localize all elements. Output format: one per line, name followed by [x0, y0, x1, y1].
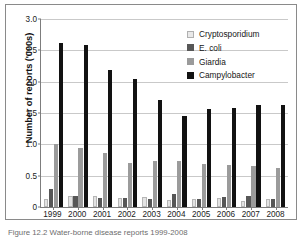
x-axis-label: 1999 — [40, 210, 65, 219]
bar — [93, 196, 97, 207]
y-tick-label: 2.0 — [26, 77, 37, 86]
x-axis-label: 2008 — [263, 210, 288, 219]
x-axis-label: 2000 — [65, 210, 90, 219]
bar — [123, 198, 127, 207]
x-axis-label: 2007 — [238, 210, 263, 219]
legend-swatch-icon — [187, 44, 194, 51]
legend-label: Campylobacter — [199, 71, 255, 79]
bar — [182, 116, 186, 207]
y-tick-label: 0.5 — [26, 171, 37, 180]
bar — [227, 165, 231, 207]
bar — [246, 196, 250, 207]
bar — [54, 144, 58, 207]
bar — [241, 201, 245, 207]
bar-group — [165, 19, 190, 207]
bar — [108, 70, 112, 207]
bar-group — [115, 19, 140, 207]
bar — [177, 161, 181, 207]
bar — [202, 164, 206, 207]
bar — [133, 79, 137, 207]
figure-root: Number of reports ('000s) 00.51.01.52.02… — [0, 0, 305, 241]
bar — [44, 199, 48, 207]
x-axis-label: 2003 — [139, 210, 164, 219]
bar — [142, 197, 146, 207]
x-axis-label: 2004 — [164, 210, 189, 219]
bar — [217, 198, 221, 207]
bar — [266, 199, 270, 207]
legend-label: Cryptosporidium — [199, 30, 259, 38]
legend-swatch-icon — [187, 58, 194, 65]
y-tick-label: 1.0 — [26, 140, 37, 149]
x-axis-label: 2006 — [214, 210, 239, 219]
chart-legend: CryptosporidiumE. coliGiardiaCampylobact… — [187, 30, 259, 80]
bar — [118, 198, 122, 207]
bar — [276, 168, 280, 207]
legend-item[interactable]: Giardia — [187, 58, 259, 66]
bar — [153, 161, 157, 207]
bar — [98, 198, 102, 207]
legend-label: Giardia — [199, 58, 226, 66]
figure-caption: Figure 12.2 Water-borne disease reports … — [8, 228, 300, 237]
bar — [128, 163, 132, 207]
bar — [207, 109, 211, 207]
bar — [281, 105, 285, 207]
x-axis-label: 2005 — [189, 210, 214, 219]
bar — [256, 105, 260, 207]
bar-group — [41, 19, 66, 207]
legend-item[interactable]: Cryptosporidium — [187, 30, 259, 38]
bar — [78, 148, 82, 207]
y-tick-label: 2.5 — [26, 46, 37, 55]
legend-swatch-icon — [187, 72, 194, 79]
bar-group — [90, 19, 115, 207]
legend-item[interactable]: E. coli — [187, 44, 259, 52]
bar-group — [140, 19, 165, 207]
bar — [197, 199, 201, 207]
bar — [73, 196, 77, 207]
bar — [232, 108, 236, 207]
y-tick-label: 0 — [32, 203, 37, 212]
bar — [84, 45, 88, 207]
bar — [167, 200, 171, 207]
x-axis-label: 2001 — [90, 210, 115, 219]
bar-group — [66, 19, 91, 207]
bar — [103, 153, 107, 207]
legend-swatch-icon — [187, 31, 194, 38]
bar — [49, 189, 53, 207]
bar — [172, 194, 176, 207]
bar — [59, 43, 63, 207]
bar — [222, 197, 226, 207]
y-tick-label: 3.0 — [26, 15, 37, 24]
bar — [158, 100, 162, 207]
bar — [148, 199, 152, 207]
legend-label: E. coli — [199, 44, 222, 52]
chart-frame: Number of reports ('000s) 00.51.01.52.02… — [5, 4, 297, 220]
bar — [192, 199, 196, 207]
bar-group — [263, 19, 288, 207]
bar — [68, 196, 72, 207]
bar — [271, 199, 275, 207]
x-axis-labels: 1999200020012002200320042005200620072008 — [40, 210, 288, 219]
x-axis-label: 2002 — [114, 210, 139, 219]
legend-item[interactable]: Campylobacter — [187, 71, 259, 79]
bar — [251, 166, 255, 207]
y-tick-label: 1.5 — [26, 109, 37, 118]
